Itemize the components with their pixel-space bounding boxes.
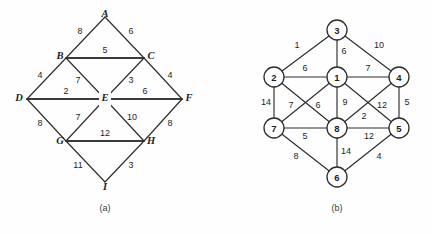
panel-a-group: 8 6 5 4 7 3 4 2 6 8 7 10 8 12 11 3 A B xyxy=(14,8,192,213)
panel-b-group: 1 6 10 6 7 14 7 6 9 12 5 2 5 12 8 14 4 xyxy=(261,20,410,213)
node-6: 6 xyxy=(334,172,339,183)
edge-weight-8-5-lower: 12 xyxy=(364,131,374,141)
node-4: 4 xyxy=(396,72,402,83)
caption-b: (b) xyxy=(332,203,343,213)
node-h: H xyxy=(146,135,156,146)
edge-weight-2-8: 6 xyxy=(315,100,320,110)
node-i: I xyxy=(102,181,108,192)
edge-weight-a-c: 6 xyxy=(128,26,133,36)
edge-weight-3-1: 6 xyxy=(341,46,346,56)
node-g: G xyxy=(56,135,64,146)
edge-g-i xyxy=(66,141,105,182)
edge-b-d xyxy=(27,58,66,99)
node-2: 2 xyxy=(271,72,276,83)
node-5: 5 xyxy=(396,123,402,134)
node-8: 8 xyxy=(334,123,339,134)
edge-weight-b-e: 7 xyxy=(75,75,80,85)
edge-weight-8-6: 14 xyxy=(341,146,351,156)
edge-weight-g-i: 11 xyxy=(73,160,82,170)
edge-weight-d-e: 2 xyxy=(63,86,68,96)
edge-weight-c-f: 4 xyxy=(167,70,172,80)
edge-weight-e-f: 6 xyxy=(142,86,147,96)
edge-weight-4-5: 5 xyxy=(404,97,409,107)
node-d: D xyxy=(14,92,23,103)
edge-a-b xyxy=(66,17,105,58)
edge-h-i xyxy=(105,141,144,182)
graph-figure: 8 6 5 4 7 3 4 2 6 8 7 10 8 12 11 3 A B xyxy=(0,0,432,234)
edge-weight-b-c: 5 xyxy=(102,45,107,55)
edge-weight-7-1: 7 xyxy=(288,100,293,110)
node-f: F xyxy=(184,92,192,103)
edge-weight-3-2: 1 xyxy=(294,40,299,50)
edge-weight-g-h: 12 xyxy=(100,128,110,138)
edge-weight-2-1: 6 xyxy=(302,63,307,73)
edge-a-c xyxy=(105,17,144,58)
caption-a: (a) xyxy=(100,203,111,213)
node-1: 1 xyxy=(334,72,340,83)
node-a: A xyxy=(100,8,108,19)
edge-weight-d-g: 8 xyxy=(37,118,42,128)
edge-weight-e-h: 10 xyxy=(127,112,137,122)
edge-weight-c-e: 3 xyxy=(128,75,133,85)
edge-weight-1-4: 7 xyxy=(365,63,370,73)
figure-root: 8 6 5 4 7 3 4 2 6 8 7 10 8 12 11 3 A B xyxy=(0,0,432,234)
edge-weight-e-g: 7 xyxy=(75,112,80,122)
node-7: 7 xyxy=(271,123,276,134)
edge-weight-h-i: 3 xyxy=(128,160,133,170)
edge-weight-4-8: 12 xyxy=(377,100,387,110)
node-3: 3 xyxy=(334,25,339,36)
edge-weight-1-8: 9 xyxy=(342,97,347,107)
edge-weight-7-8: 5 xyxy=(302,131,307,141)
node-e-top: E xyxy=(100,92,108,103)
edge-weight-3-4: 10 xyxy=(374,40,384,50)
edge-c-f xyxy=(144,58,182,99)
edge-weight-7-6: 8 xyxy=(293,151,298,161)
panel-b-edge-weights: 1 6 10 6 7 14 7 6 9 12 5 2 5 12 8 14 4 xyxy=(261,40,410,161)
node-c: C xyxy=(147,50,155,61)
node-b: B xyxy=(55,50,63,61)
edge-weight-2-7: 14 xyxy=(261,97,271,107)
edge-weight-b-d: 4 xyxy=(37,70,42,80)
edge-weight-a-b: 8 xyxy=(77,26,82,36)
edge-weight-f-h: 8 xyxy=(167,118,172,128)
edge-weight-6-5: 4 xyxy=(376,151,381,161)
edge-weight-8-5: 2 xyxy=(361,111,366,121)
